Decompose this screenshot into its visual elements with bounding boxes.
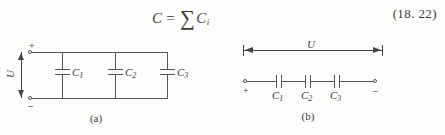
- fig-a-plus-sign: +: [29, 41, 35, 51]
- fig-b-wire-segment-4: [340, 81, 373, 82]
- fig-a-capacitor1-plate-top: [55, 69, 70, 70]
- fig-b-dim-arrow-left-icon: [245, 47, 253, 53]
- fig-b-capacitor3-subscript: 3: [337, 94, 341, 103]
- fig-b-capacitor2-plate-left: [305, 75, 306, 88]
- fig-a-capacitor3-subscript: 3: [184, 71, 188, 80]
- fig-b-capacitor3-label: C3: [330, 89, 341, 103]
- fig-b-capacitor3-plate-right: [339, 75, 340, 88]
- equation-rhs-symbol: C: [196, 10, 206, 26]
- fig-a-caption: (a): [76, 112, 116, 124]
- fig-b-dim-arrow-right-icon: [373, 47, 381, 53]
- equation-operator: =: [162, 10, 179, 26]
- fig-b-wire-segment-3: [311, 81, 334, 82]
- fig-a-branch2-wire-top: [115, 52, 116, 69]
- fig-b-capacitor1-label: C1: [272, 89, 283, 103]
- fig-b-plus-sign: +: [243, 86, 249, 96]
- equation-capacitance-sum: C=∑Ci: [152, 4, 209, 29]
- figure-page: C=∑Ci (18. 22) + – U C1 C2 C3 (a) U +: [0, 0, 445, 135]
- fig-b-minus-sign: –: [373, 86, 378, 96]
- fig-b-wire-segment-1: [247, 81, 276, 82]
- fig-a-capacitor2-plate-top: [108, 69, 123, 70]
- fig-b-terminal-negative[interactable]: [373, 79, 377, 83]
- fig-a-capacitor1-subscript: 1: [79, 71, 83, 80]
- fig-b-voltage-label: U: [304, 38, 318, 50]
- fig-b-terminal-positive[interactable]: [243, 79, 247, 83]
- fig-b-capacitor1-subscript: 1: [279, 94, 283, 103]
- fig-b-capacitor1-plate-left: [276, 75, 277, 88]
- fig-a-capacitor1-label: C1: [72, 66, 83, 80]
- equation-rhs-subscript: i: [207, 17, 210, 27]
- fig-b-caption: (b): [288, 110, 328, 122]
- fig-a-bottom-rail: [30, 98, 168, 99]
- equation-number: (18. 22): [393, 6, 437, 22]
- fig-a-capacitor2-subscript: 2: [132, 71, 136, 80]
- fig-a-capacitor3-label: C3: [177, 66, 188, 80]
- fig-a-branch1-wire-bottom: [62, 74, 63, 99]
- fig-b-capacitor2-subscript: 2: [308, 94, 312, 103]
- fig-a-voltage-arrow-down-icon: [18, 90, 24, 97]
- fig-a-capacitor3-plate-top: [160, 69, 175, 70]
- summation-icon: ∑: [179, 6, 196, 30]
- fig-b-dim-line: [244, 50, 382, 51]
- fig-a-voltage-label: U: [4, 70, 16, 78]
- fig-a-branch2-wire-bottom: [115, 74, 116, 99]
- equation-lhs: C: [152, 10, 162, 26]
- fig-a-minus-sign: –: [28, 101, 33, 111]
- fig-a-capacitor2-label: C2: [125, 66, 136, 80]
- fig-a-voltage-arrow-up-icon: [18, 53, 24, 60]
- fig-a-top-rail: [30, 52, 168, 53]
- fig-b-capacitor2-plate-right: [310, 75, 311, 88]
- fig-a-capacitor3-plate-bottom: [160, 74, 175, 75]
- fig-a-right-rail: [167, 52, 168, 99]
- fig-a-branch1-wire-top: [62, 52, 63, 69]
- fig-b-capacitor2-label: C2: [301, 89, 312, 103]
- fig-b-capacitor3-plate-left: [334, 75, 335, 88]
- fig-b-wire-segment-2: [282, 81, 305, 82]
- fig-b-dim-tick-right: [382, 45, 383, 56]
- fig-b-capacitor1-plate-right: [281, 75, 282, 88]
